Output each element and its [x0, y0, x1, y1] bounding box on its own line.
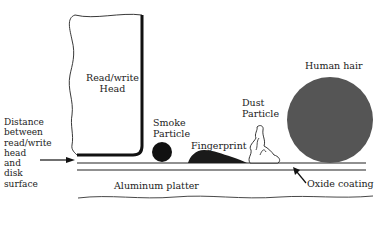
head-label: Read/write Head [86, 72, 139, 94]
aluminum-platter-label: Aluminum platter [114, 180, 199, 191]
fingerprint-label: Fingerprint [191, 140, 247, 151]
platter-break-line [78, 196, 373, 198]
distance-label: Distance between read/write head and dis… [4, 117, 52, 189]
dust-particle-label: Dust Particle [242, 97, 279, 119]
oxide-coating-label: Oxide coating [307, 178, 374, 189]
human-hair-label: Human hair [305, 60, 363, 71]
dust-particle-icon [249, 126, 280, 163]
smoke-particle-label: Smoke Particle [153, 117, 190, 139]
smoke-particle-icon [152, 142, 172, 162]
fingerprint-icon [188, 150, 247, 163]
human-hair-icon [287, 77, 373, 163]
